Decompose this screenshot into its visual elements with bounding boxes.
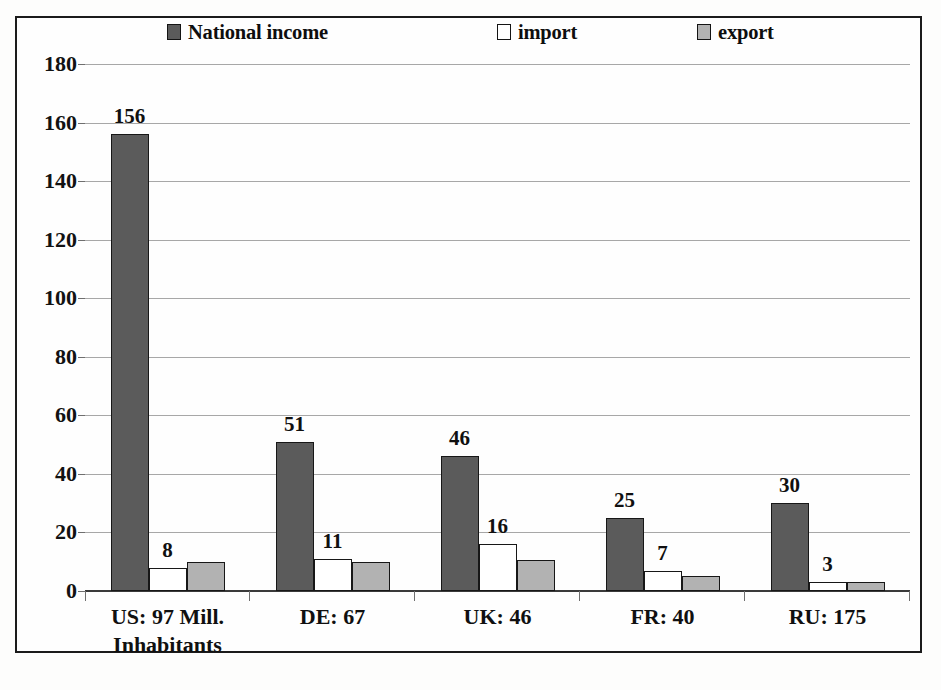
y-axis-tick-mark [78,240,85,241]
x-axis-tick-mark [909,591,910,601]
bar-value-label: 46 [449,428,470,449]
y-axis-tick-label: 160 [19,112,77,134]
x-axis-category-label: UK: 46 [464,603,532,631]
y-axis-tick-labels: 020406080100120140160180 [17,64,77,591]
filled-dark-square-icon [167,24,181,40]
y-axis-tick-mark [78,64,85,65]
x-axis-category-label: FR: 40 [630,603,694,631]
x-axis-tick-mark [744,591,745,601]
bar [314,559,352,591]
y-axis-tick-mark [78,532,85,533]
y-axis-tick-label: 0 [19,580,77,602]
bar [606,518,644,591]
bar-value-label: 156 [114,106,146,127]
plot-area: 156851114616257303 [85,64,910,591]
x-axis-tick-mark [249,591,250,601]
bar-group: 257 [580,64,745,591]
x-axis-tick-mark [579,591,580,601]
y-axis-tick-label: 120 [19,229,77,251]
x-axis-tick-mark [414,591,415,601]
bar [809,582,847,591]
bar-value-label: 16 [487,516,508,537]
y-axis-tick-label: 180 [19,53,77,75]
y-axis-tick-label: 80 [19,346,77,368]
empty-square-icon [497,24,511,40]
x-axis-tick-mark [85,591,86,601]
x-axis-category-label: US: 97 Mill. Inhabitants [111,603,224,658]
y-axis-tick-label: 100 [19,287,77,309]
y-axis-tick-label: 60 [19,404,77,426]
bar-value-label: 11 [323,531,343,552]
bar [479,544,517,591]
bar-value-label: 30 [779,475,800,496]
x-axis-category-label: RU: 175 [789,603,867,631]
bar-value-label: 8 [162,540,173,561]
bar [847,582,885,591]
chart-legend: National income import export [17,18,920,54]
bar [111,134,149,591]
chart-frame: National income import export 0204060801… [15,16,922,653]
bar-group: 303 [745,64,910,591]
legend-item-national-income: National income [167,22,328,43]
y-axis-tick-mark [78,415,85,416]
y-axis-tick-label: 140 [19,170,77,192]
y-axis-tick-mark [78,123,85,124]
bar [149,568,187,591]
legend-label-import: import [518,22,577,43]
y-axis-tick-mark [78,181,85,182]
filled-light-square-icon [697,24,711,40]
y-axis-tick-mark [78,591,85,592]
bar [187,562,225,591]
bar [441,456,479,591]
bar [771,503,809,591]
y-axis-tick-mark [78,298,85,299]
bar [517,560,555,591]
y-axis-tick-mark [78,357,85,358]
bar [644,571,682,591]
y-axis-tick-mark [78,474,85,475]
x-axis-tick-labels: US: 97 Mill. InhabitantsDE: 67UK: 46FR: … [85,603,910,673]
bar-value-label: 7 [657,543,668,564]
bar [352,562,390,591]
bar-group: 4616 [415,64,580,591]
y-axis-tick-label: 40 [19,463,77,485]
legend-item-export: export [697,22,774,43]
y-axis-tick-label: 20 [19,521,77,543]
bar [276,442,314,591]
legend-label-export: export [718,22,774,43]
bar [682,576,720,591]
legend-label-national-income: National income [188,22,328,43]
bar-group: 1568 [85,64,250,591]
chart-figure: National income import export 0204060801… [0,0,941,690]
bar-value-label: 51 [284,414,305,435]
bar-value-label: 25 [614,490,635,511]
bar-value-label: 3 [822,554,833,575]
bar-group: 5111 [250,64,415,591]
x-axis-category-label: DE: 67 [300,603,365,631]
legend-item-import: import [497,22,577,43]
